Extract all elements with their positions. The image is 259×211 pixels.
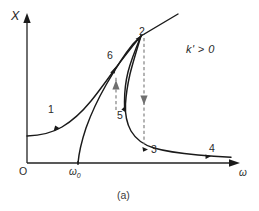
- resonance-curve-plot: [0, 0, 259, 211]
- condition-label: k' > 0: [186, 44, 215, 55]
- point-label-6: 6: [107, 50, 113, 61]
- x-axis-label: ω: [239, 168, 247, 178]
- y-axis-label: X: [11, 10, 19, 23]
- jump-up-arrowhead-icon: [112, 80, 119, 90]
- omega-zero-symbol: ω: [69, 166, 77, 177]
- omega-zero-subscript: 0: [77, 172, 81, 179]
- point-label-3: 3: [151, 144, 157, 155]
- figure-caption: (a): [117, 190, 130, 201]
- x-axis-arrowhead: [229, 159, 240, 167]
- point-6-marker-icon: [110, 67, 116, 74]
- point-label-5: 5: [117, 110, 123, 121]
- axes-group: [23, 13, 240, 167]
- upper-response-branch-curve: [27, 14, 178, 136]
- point-label-2: 2: [139, 26, 145, 37]
- point-label-4: 4: [209, 143, 215, 154]
- omega-zero-tick-label: ω0: [69, 167, 81, 179]
- curves-group: [27, 14, 231, 163]
- figure-container: X ω O ω0 k' > 0 (a) 1 2 3 4 5 6: [0, 0, 259, 211]
- point-label-1: 1: [48, 104, 54, 115]
- origin-label: O: [19, 166, 27, 177]
- point-3-marker-icon: [142, 147, 148, 152]
- y-axis-arrowhead: [23, 13, 30, 23]
- jump-down-arrowhead-icon: [140, 96, 147, 106]
- unstable-middle-branch-curve: [125, 36, 142, 110]
